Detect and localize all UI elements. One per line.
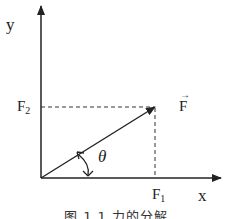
angle-theta-label: θ [98,148,106,165]
vector-f-label: → F [179,99,187,114]
force-decomposition-diagram [0,0,226,219]
f2-label: F2 [17,99,30,116]
x-axis-label: x [198,187,207,204]
f1-label: F1 [152,187,165,204]
force-vector [41,107,155,178]
figure-caption: 图 1.1 力的分解 [64,206,168,219]
vector-arrow-mark: → [180,90,190,100]
y-axis-label: y [6,16,15,33]
